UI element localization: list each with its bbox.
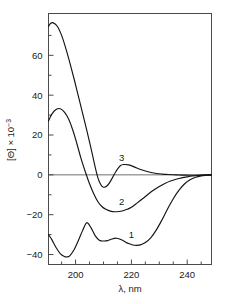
series-label-1: 1	[129, 229, 134, 240]
plot-frame	[49, 14, 212, 265]
y-axis-title-base: [Θ] × 10	[5, 127, 16, 161]
y-axis-title-group: [Θ] × 10−3	[5, 119, 16, 161]
data-curves	[49, 23, 212, 257]
x-tick-label: 200	[68, 269, 84, 280]
curve-1	[49, 175, 212, 257]
x-tick-label: 220	[123, 269, 139, 280]
y-axis-title: [Θ] × 10−3	[5, 119, 16, 161]
cd-spectra-figure: 200220240−40−200204060 123 λ, nm [Θ] × 1…	[0, 0, 226, 304]
y-tick-label: 20	[32, 129, 43, 140]
x-tick-label: 240	[179, 269, 195, 280]
y-tick-label: 40	[32, 90, 43, 101]
y-tick-label: −40	[26, 249, 42, 260]
curve-2	[49, 109, 212, 212]
y-tick-label: −20	[26, 209, 42, 220]
series-label-2: 2	[119, 196, 124, 207]
series-label-3: 3	[119, 152, 124, 163]
y-axis-title-exponent: −3	[5, 119, 12, 127]
y-tick-label: 60	[32, 50, 43, 61]
chart-canvas: 200220240−40−200204060 123 λ, nm [Θ] × 1…	[0, 0, 226, 304]
y-tick-label: 0	[37, 169, 42, 180]
x-axis-title: λ, nm	[118, 283, 141, 294]
curve-3	[49, 23, 212, 188]
axis-tick-labels: 200220240−40−200204060	[26, 50, 195, 280]
